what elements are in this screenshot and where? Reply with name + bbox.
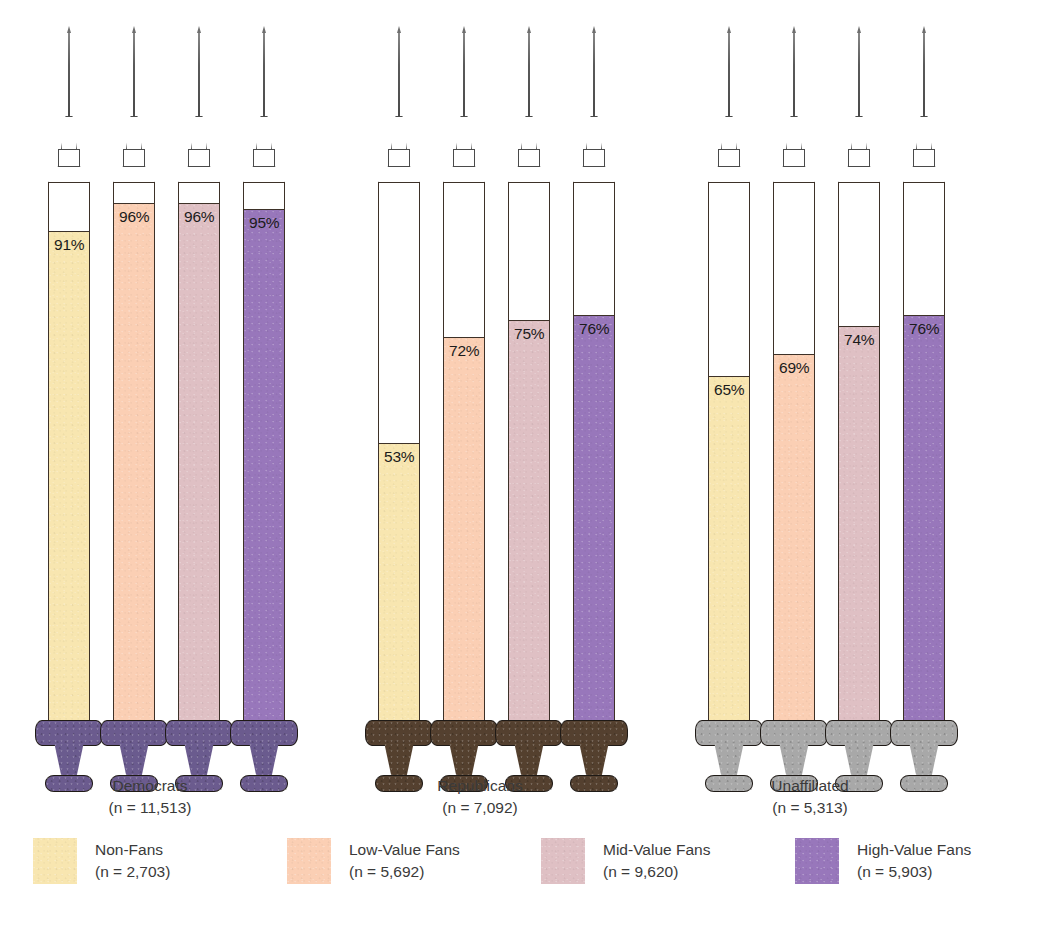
needle-icon <box>398 30 400 118</box>
chart-canvas: 91%96%96%95%53%72%75%76%65%69%74%76% Dem… <box>0 0 1045 952</box>
group-sample-size: (n = 7,092) <box>330 797 630 819</box>
legend-label: Low-Value Fans <box>349 839 460 861</box>
bar-value-label: 76% <box>579 320 609 338</box>
fill-texture <box>114 204 154 739</box>
plunger-texture <box>54 743 84 778</box>
plunger-stem <box>778 743 810 779</box>
plunger-texture <box>366 721 432 745</box>
legend-sample-size: (n = 5,692) <box>349 861 460 883</box>
legend-label: Mid-Value Fans <box>603 839 710 861</box>
legend-item[interactable]: Low-Value Fans(n = 5,692) <box>287 838 460 884</box>
plunger-stem <box>713 743 745 779</box>
chart-legend: Non-Fans(n = 2,703)Low-Value Fans(n = 5,… <box>0 838 1045 918</box>
needle-icon <box>923 30 925 118</box>
fill-texture <box>904 316 944 739</box>
barrel-fill: 75% <box>509 320 549 739</box>
needle-hub <box>786 116 802 150</box>
plunger-texture <box>514 743 544 778</box>
group-name: Unaffiliated <box>660 775 960 797</box>
syringe-barrel: 96% <box>178 182 220 740</box>
group-label-republicans: Republicans(n = 7,092) <box>330 775 630 820</box>
syringe-collar <box>123 149 145 167</box>
barrel-fill: 91% <box>49 231 89 739</box>
needle-icon <box>793 30 795 118</box>
syringe-barrel: 72% <box>443 182 485 740</box>
plunger-stem <box>118 743 150 779</box>
bar-value-label: 75% <box>514 325 544 343</box>
syringe-shoulder <box>708 166 750 183</box>
plunger-texture <box>36 721 102 745</box>
syringe-collar <box>783 149 805 167</box>
syringe-barrel: 74% <box>838 182 880 740</box>
plunger-texture <box>496 721 562 745</box>
syringe-collar <box>453 149 475 167</box>
legend-color-swatch <box>541 838 585 884</box>
syringe-barrel: 76% <box>903 182 945 740</box>
legend-color-swatch <box>33 838 77 884</box>
plunger-texture <box>101 721 167 745</box>
syringe-shoulder <box>243 166 285 183</box>
swatch-texture <box>287 838 331 884</box>
legend-item[interactable]: Non-Fans(n = 2,703) <box>33 838 170 884</box>
plunger-stem <box>843 743 875 779</box>
plunger-texture <box>761 721 827 745</box>
plunger-texture <box>166 721 232 745</box>
needle-hub <box>191 116 207 150</box>
plunger-texture <box>119 743 149 778</box>
group-name: Republicans <box>330 775 630 797</box>
bar-value-label: 74% <box>844 331 874 349</box>
syringe-shoulder <box>838 166 880 183</box>
barrel-fill: 96% <box>179 203 219 739</box>
bar-value-label: 91% <box>54 236 84 254</box>
needle-icon <box>68 30 70 118</box>
legend-text: High-Value Fans(n = 5,903) <box>857 838 971 884</box>
needle-hub <box>126 116 142 150</box>
legend-text: Low-Value Fans(n = 5,692) <box>349 838 460 884</box>
needle-hub <box>721 116 737 150</box>
legend-text: Mid-Value Fans(n = 9,620) <box>603 838 710 884</box>
bar-value-label: 72% <box>449 342 479 360</box>
syringe-collar <box>913 149 935 167</box>
syringe-collar <box>388 149 410 167</box>
plunger-flange <box>825 720 893 746</box>
plunger-texture <box>826 721 892 745</box>
barrel-fill: 69% <box>774 354 814 739</box>
syringe-collar <box>58 149 80 167</box>
plunger-stem <box>53 743 85 779</box>
needle-icon <box>463 30 465 118</box>
plunger-texture <box>431 721 497 745</box>
barrel-fill: 76% <box>574 315 614 739</box>
plunger-flange <box>365 720 433 746</box>
plunger-flange <box>890 720 958 746</box>
legend-item[interactable]: Mid-Value Fans(n = 9,620) <box>541 838 710 884</box>
syringe-barrel: 76% <box>573 182 615 740</box>
needle-hub <box>61 116 77 150</box>
legend-sample-size: (n = 9,620) <box>603 861 710 883</box>
bar-value-label: 53% <box>384 448 414 466</box>
needle-icon <box>198 30 200 118</box>
syringe-shoulder <box>113 166 155 183</box>
syringe-shoulder <box>378 166 420 183</box>
legend-item[interactable]: High-Value Fans(n = 5,903) <box>795 838 971 884</box>
plunger-texture <box>579 743 609 778</box>
syringe-collar <box>518 149 540 167</box>
group-sample-size: (n = 5,313) <box>660 797 960 819</box>
syringe-barrel: 96% <box>113 182 155 740</box>
syringe-barrel: 65% <box>708 182 750 740</box>
needle-hub <box>586 116 602 150</box>
plunger-texture <box>184 743 214 778</box>
plunger-texture <box>561 721 627 745</box>
syringe-collar <box>253 149 275 167</box>
syringe-collar <box>188 149 210 167</box>
swatch-texture <box>795 838 839 884</box>
plunger-flange <box>495 720 563 746</box>
plunger-stem <box>908 743 940 779</box>
syringe-collar <box>848 149 870 167</box>
fill-texture <box>379 444 419 739</box>
plunger-flange <box>695 720 763 746</box>
plunger-texture <box>779 743 809 778</box>
barrel-fill: 65% <box>709 376 749 739</box>
bar-value-label: 65% <box>714 381 744 399</box>
fill-texture <box>839 327 879 739</box>
syringe-barrel: 69% <box>773 182 815 740</box>
